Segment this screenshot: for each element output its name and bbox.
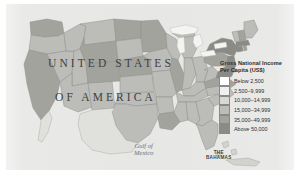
state-colorado bbox=[86, 61, 120, 83]
legend-swatch bbox=[219, 86, 230, 96]
legend-label: 35,000–49,999 bbox=[234, 117, 270, 123]
island-bahamas-3 bbox=[216, 152, 221, 156]
state-rhode-island bbox=[243, 45, 247, 51]
state-montana bbox=[80, 19, 116, 45]
legend-title: Gross National Income Per Capita (US$) bbox=[220, 60, 291, 74]
legend-title-line1: Gross National Income bbox=[220, 60, 291, 67]
legend-swatch bbox=[219, 124, 230, 134]
state-arkansas bbox=[156, 97, 174, 114]
state-minnesota bbox=[141, 20, 167, 52]
legend-row: 2,500–9,999 bbox=[219, 86, 291, 96]
legend-row: 35,000–49,999 bbox=[219, 115, 291, 125]
legend-swatch bbox=[219, 96, 230, 106]
lake-superior bbox=[170, 25, 198, 35]
legend-swatch bbox=[219, 105, 230, 115]
legend-label: 10,000–14,999 bbox=[234, 97, 270, 103]
state-north-dakota bbox=[114, 19, 141, 41]
state-washington bbox=[30, 19, 64, 37]
island-bahamas-1 bbox=[222, 141, 229, 148]
legend-label: 2,500–9,999 bbox=[234, 88, 264, 94]
state-maine bbox=[244, 20, 258, 38]
island-bahamas-2 bbox=[231, 149, 237, 155]
map-legend: Gross National Income Per Capita (US$) B… bbox=[219, 60, 291, 134]
state-new-mexico bbox=[88, 81, 115, 110]
legend-row: Above 50,000 bbox=[219, 124, 291, 134]
map-figure: UNITED STATES OF AMERICA Gulf of Mexico … bbox=[0, 0, 299, 174]
legend-title-line2: Per Capita (US$) bbox=[220, 67, 291, 74]
legend-swatch bbox=[219, 115, 230, 125]
legend-row: 15,000–34,999 bbox=[219, 105, 291, 115]
legend-rows: Below 2,5002,500–9,99910,000–14,99915,00… bbox=[219, 76, 291, 134]
legend-label: Below 2,500 bbox=[234, 78, 264, 84]
legend-label: 15,000–34,999 bbox=[234, 107, 270, 113]
state-kansas bbox=[120, 74, 154, 93]
island-cuba bbox=[226, 158, 260, 166]
legend-row: Below 2,500 bbox=[219, 76, 291, 86]
legend-row: 10,000–14,999 bbox=[219, 96, 291, 106]
legend-swatch bbox=[219, 76, 230, 86]
legend-label: Above 50,000 bbox=[234, 126, 268, 132]
